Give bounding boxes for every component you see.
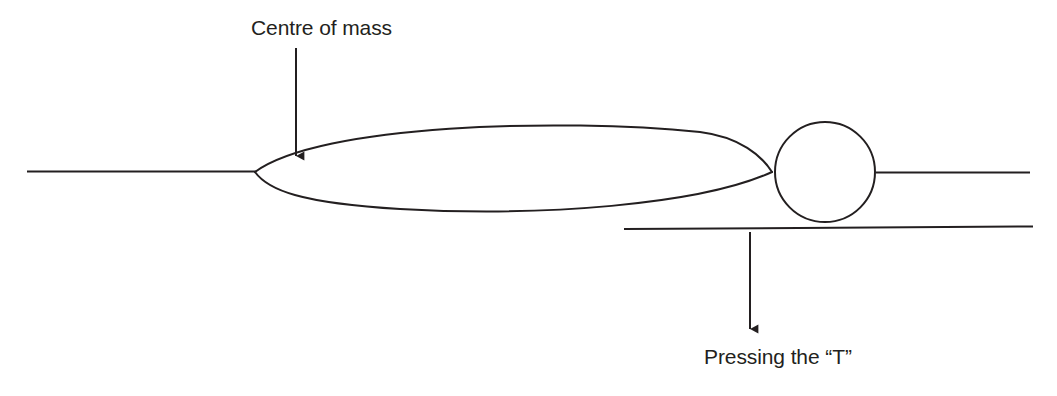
lens-body-upper-arc — [255, 125, 772, 172]
diagram-canvas: Centre of mass Pressing the “T” — [0, 0, 1057, 396]
centre-of-mass-label: Centre of mass — [251, 16, 392, 40]
lower-horizontal-line — [624, 227, 1033, 230]
pressing-the-t-label: Pressing the “T” — [704, 345, 852, 369]
circle-head — [775, 122, 875, 222]
lens-body-lower-arc — [255, 172, 772, 211]
diagram-svg — [0, 0, 1057, 396]
